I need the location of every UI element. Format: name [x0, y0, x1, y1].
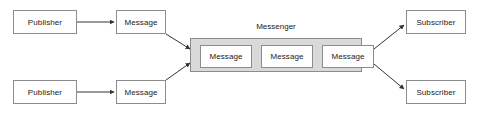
messenger-message-label-3: Message [331, 52, 364, 61]
edge-messenger-to-subscriber1 [374, 25, 404, 49]
edge-message2-to-messenger [166, 63, 190, 80]
diagram-canvas: Publisher Publisher Message Message Mess… [0, 0, 479, 113]
messenger-message-box-3: Message [322, 45, 374, 68]
edge-messenger-to-subscriber2 [374, 64, 404, 89]
messenger-message-box-1: Message [200, 45, 252, 68]
edge-message1-to-messenger [166, 34, 190, 49]
messenger-message-label-1: Message [209, 52, 242, 61]
messenger-message-box-2: Message [261, 45, 313, 68]
messenger-message-label-2: Message [270, 52, 303, 61]
